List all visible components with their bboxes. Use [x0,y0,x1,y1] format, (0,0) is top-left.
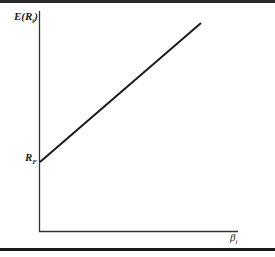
chart-canvas [0,0,275,257]
security-market-line [40,23,201,162]
y-axis-label: E(Ri) [14,10,38,25]
risk-free-label: RF [25,151,37,166]
x-axis-label: βi [230,231,237,246]
